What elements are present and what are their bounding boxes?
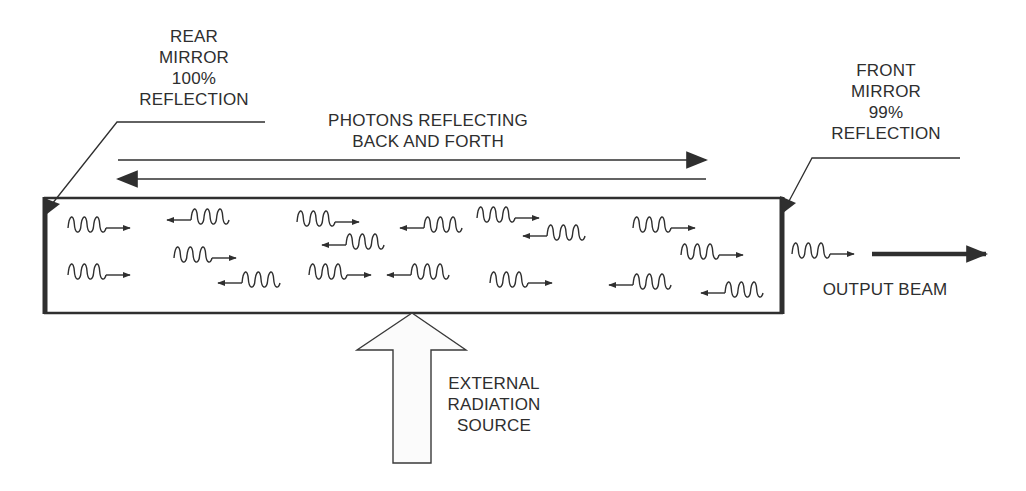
photons-label-line2: BACK AND FORTH [300,131,556,152]
rear-mirror-label-line2: MIRROR [126,47,262,68]
photons-label-line1: PHOTONS REFLECTING [300,110,556,131]
photon-icon [309,264,371,279]
photon-icon [174,247,236,262]
photon-icon [297,211,359,226]
rear-mirror-label-line4: REFLECTION [126,89,262,110]
photons-group [68,207,854,297]
external-source-label-line3: SOURCE [434,415,554,436]
photon-icon [322,234,384,249]
photon-icon [633,217,695,232]
output-beam-label-text: OUTPUT BEAM [805,279,965,300]
photon-icon [218,272,280,287]
photon-icon [167,209,229,224]
front-mirror-label: FRONT MIRROR 99% REFLECTION [818,60,954,144]
rear-mirror-leader [44,122,265,214]
photon-icon [400,217,462,232]
external-source-label-line2: RADIATION [434,394,554,415]
external-source-label: EXTERNAL RADIATION SOURCE [434,373,554,436]
photon-icon [523,225,585,240]
rear-mirror-label-line3: 100% [126,68,262,89]
photons-label: PHOTONS REFLECTING BACK AND FORTH [300,110,556,152]
photon-icon [792,243,854,258]
rear-mirror-label: REAR MIRROR 100% REFLECTION [126,26,262,110]
front-mirror-label-line4: REFLECTION [818,123,954,144]
back-and-forth-arrows [118,160,706,179]
laser-cavity [44,197,783,314]
photon-icon [477,207,539,222]
photon-icon [609,274,671,289]
front-mirror-label-line3: 99% [818,102,954,123]
front-mirror-label-line2: MIRROR [818,81,954,102]
photon-icon [68,217,130,232]
output-beam-label: OUTPUT BEAM [805,279,965,300]
front-mirror-leader [780,158,960,213]
photon-icon [490,272,552,287]
photon-icon [701,282,763,297]
photon-icon [387,264,449,279]
front-mirror-label-line1: FRONT [818,60,954,81]
external-source-label-line1: EXTERNAL [434,373,554,394]
rear-mirror-label-line1: REAR [126,26,262,47]
photon-icon [68,264,130,279]
photon-icon [681,244,743,259]
